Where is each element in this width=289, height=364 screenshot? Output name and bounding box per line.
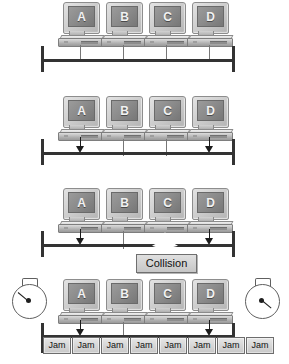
monitor-bezel: A bbox=[63, 188, 100, 220]
power-led bbox=[150, 135, 154, 137]
base-chassis bbox=[101, 315, 147, 324]
drive-slot bbox=[81, 41, 98, 44]
computer-c[interactable]: C bbox=[144, 2, 190, 50]
monitor-screen: A bbox=[68, 6, 95, 27]
drive-slot bbox=[124, 135, 141, 138]
drive-slot bbox=[124, 41, 141, 44]
power-led bbox=[150, 227, 154, 229]
monitor-bezel: D bbox=[192, 96, 229, 128]
power-led bbox=[64, 135, 68, 137]
clock-hub bbox=[259, 298, 264, 303]
power-led bbox=[193, 41, 197, 43]
transmit-arrow-d bbox=[205, 229, 214, 245]
monitor-screen: C bbox=[154, 100, 181, 121]
drive-slot bbox=[167, 227, 184, 230]
station-label: C bbox=[163, 11, 172, 23]
monitor-screen: C bbox=[154, 192, 181, 213]
station-label: B bbox=[120, 288, 129, 300]
monitor-bezel: B bbox=[106, 2, 143, 34]
computer-b[interactable]: B bbox=[101, 96, 147, 144]
step-simultaneous-transmit: A B bbox=[0, 88, 289, 180]
computer-base bbox=[58, 35, 104, 46]
power-led bbox=[150, 41, 154, 43]
jam-label: Jam bbox=[164, 341, 181, 350]
jam-box: Jam bbox=[188, 337, 216, 354]
jam-label: Jam bbox=[48, 341, 65, 350]
drive-slot bbox=[124, 227, 141, 230]
bus-terminator-left bbox=[41, 231, 44, 257]
station-label: C bbox=[163, 197, 172, 209]
monitor-bezel: C bbox=[149, 96, 186, 128]
computer-base bbox=[144, 35, 190, 46]
computer-b[interactable]: B bbox=[101, 2, 147, 50]
monitor-bezel: B bbox=[106, 279, 143, 311]
power-led bbox=[64, 318, 68, 320]
bus-cable bbox=[41, 152, 235, 155]
base-chassis bbox=[144, 132, 190, 141]
transmit-arrow-a bbox=[76, 137, 85, 153]
monitor-bezel: C bbox=[149, 2, 186, 34]
jam-label: Jam bbox=[106, 341, 123, 350]
computer-c[interactable]: C bbox=[144, 279, 190, 327]
jam-label: Jam bbox=[222, 341, 239, 350]
collision-label: Collision bbox=[146, 258, 188, 269]
monitor-bezel: D bbox=[192, 188, 229, 220]
monitor-screen: A bbox=[68, 100, 95, 121]
monitor-screen: B bbox=[111, 283, 138, 304]
computer-d[interactable]: D bbox=[187, 2, 233, 50]
base-chassis bbox=[144, 315, 190, 324]
base-chassis bbox=[187, 38, 233, 47]
jam-box: Jam bbox=[217, 337, 245, 354]
power-led bbox=[107, 227, 111, 229]
power-led bbox=[64, 227, 68, 229]
computer-a[interactable]: A bbox=[58, 2, 104, 50]
base-chassis bbox=[101, 224, 147, 233]
power-led bbox=[193, 135, 197, 137]
computer-b[interactable]: B bbox=[101, 188, 147, 236]
bus-terminator-left bbox=[41, 139, 44, 165]
station-label: D bbox=[206, 11, 215, 23]
bus-terminator-left bbox=[41, 46, 44, 72]
station-label: D bbox=[206, 288, 215, 300]
monitor-screen: D bbox=[197, 283, 224, 304]
monitor-screen: D bbox=[197, 6, 224, 27]
station-label: D bbox=[206, 105, 215, 117]
computer-b[interactable]: B bbox=[101, 279, 147, 327]
backoff-timer-left bbox=[10, 278, 48, 318]
station-label: D bbox=[206, 197, 215, 209]
computer-base bbox=[101, 35, 147, 46]
station-label: C bbox=[163, 105, 172, 117]
monitor-screen: C bbox=[154, 283, 181, 304]
power-led bbox=[107, 41, 111, 43]
power-led bbox=[107, 318, 111, 320]
base-chassis bbox=[101, 132, 147, 141]
monitor-bezel: A bbox=[63, 279, 100, 311]
station-label: A bbox=[77, 105, 86, 117]
computer-base bbox=[144, 221, 190, 232]
jam-label: Jam bbox=[77, 341, 94, 350]
computer-c[interactable]: C bbox=[144, 96, 190, 144]
computer-base bbox=[101, 221, 147, 232]
bus-terminator-right bbox=[232, 139, 235, 165]
jam-box: Jam bbox=[72, 337, 100, 354]
base-chassis bbox=[144, 38, 190, 47]
transmit-arrow-a bbox=[76, 320, 85, 336]
jam-box: Jam bbox=[246, 337, 274, 354]
station-label: B bbox=[120, 105, 129, 117]
jam-signal-strip: JamJamJamJamJamJamJamJam bbox=[43, 337, 274, 354]
transmit-arrow-d bbox=[205, 137, 214, 153]
base-chassis bbox=[58, 38, 104, 47]
monitor-bezel: C bbox=[149, 279, 186, 311]
monitor-bezel: B bbox=[106, 188, 143, 220]
computer-c[interactable]: C bbox=[144, 188, 190, 236]
monitor-screen: A bbox=[68, 192, 95, 213]
jam-label: Jam bbox=[193, 341, 210, 350]
bus-cable bbox=[41, 59, 235, 62]
jam-box: Jam bbox=[130, 337, 158, 354]
jam-box: Jam bbox=[159, 337, 187, 354]
collision-label-box: Collision bbox=[136, 254, 197, 273]
power-led bbox=[193, 227, 197, 229]
power-led bbox=[64, 41, 68, 43]
base-chassis bbox=[101, 38, 147, 47]
diagram-canvas: A B bbox=[0, 0, 289, 364]
